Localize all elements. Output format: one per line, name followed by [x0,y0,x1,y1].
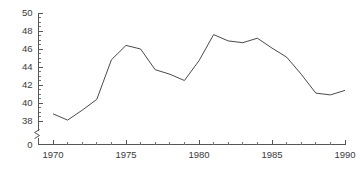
chart-canvas: 504846444240380 19701975198019851990 [0,0,360,173]
x-tick-label-1970: 1970 [42,149,63,160]
x-tick-label-1985: 1985 [261,149,282,160]
chart-background [0,0,360,173]
x-tick-label-1975: 1975 [115,149,136,160]
line-chart: 504846444240380 19701975198019851990 [0,0,360,173]
y-tick-label-38: 38 [22,115,33,126]
y-tick-label-0: 0 [27,139,32,150]
y-tick-label-44: 44 [22,61,33,72]
y-tick-label-46: 46 [22,43,33,54]
x-tick-label-1990: 1990 [334,149,355,160]
y-tick-label-42: 42 [22,79,33,90]
y-tick-label-48: 48 [22,25,33,36]
x-tick-label-1980: 1980 [188,149,209,160]
y-tick-label-50: 50 [22,7,33,18]
y-tick-label-40: 40 [22,97,33,108]
